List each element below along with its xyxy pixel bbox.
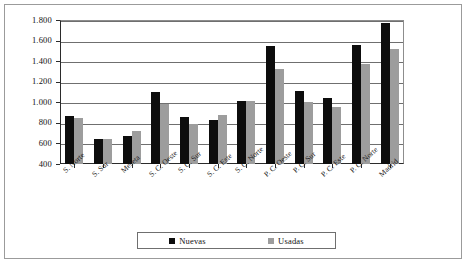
bar-nuevas	[237, 101, 246, 164]
y-axis-tick-label: 1.800	[0, 16, 52, 25]
y-axis-tick-label: 400	[0, 160, 52, 169]
legend-label: Usadas	[278, 236, 304, 246]
chart-legend: NuevasUsadas	[137, 232, 336, 249]
legend-swatch-icon	[268, 238, 274, 244]
bar-group	[323, 20, 341, 164]
y-axis-tick-label: 600	[0, 139, 52, 148]
bar-nuevas	[323, 98, 332, 164]
y-axis-tick-label: 1.200	[0, 77, 52, 86]
bar-group	[180, 20, 198, 164]
y-axis-tick-mark	[56, 164, 60, 165]
bar-group	[94, 20, 112, 164]
bar-group	[209, 20, 227, 164]
bar-group	[65, 20, 83, 164]
y-axis-tick-label: 1.400	[0, 57, 52, 66]
bar-nuevas	[266, 46, 275, 164]
chart-page: 1.8001.6001.4001.2001.000800600400 S. No…	[0, 0, 468, 267]
bar-usadas	[275, 69, 284, 164]
bar-nuevas	[352, 45, 361, 164]
y-axis-tick-label: 1.000	[0, 98, 52, 107]
bar-group	[381, 20, 399, 164]
x-axis-labels: S. NorteS. SurMesetaS. C. OesteS. C. Sur…	[60, 166, 404, 221]
bar-group	[352, 20, 370, 164]
bar-nuevas	[151, 92, 160, 165]
legend-item-usadas[interactable]: Usadas	[268, 236, 304, 246]
bar-chart: 1.8001.6001.4001.2001.000800600400 S. No…	[0, 0, 468, 267]
legend-swatch-icon	[169, 238, 175, 244]
bar-group	[123, 20, 141, 164]
legend-item-nuevas[interactable]: Nuevas	[169, 236, 206, 246]
bar-group	[151, 20, 169, 164]
bar-nuevas	[381, 23, 390, 164]
y-axis-tick-label: 1.600	[0, 36, 52, 45]
y-axis-tick-label: 800	[0, 118, 52, 127]
bar-nuevas	[295, 91, 304, 164]
bar-nuevas	[209, 120, 218, 164]
bar-group	[266, 20, 284, 164]
bar-group	[295, 20, 313, 164]
bar-group	[237, 20, 255, 164]
legend-label: Nuevas	[179, 236, 206, 246]
bar-usadas	[390, 49, 399, 164]
bar-series-layer	[60, 20, 404, 164]
